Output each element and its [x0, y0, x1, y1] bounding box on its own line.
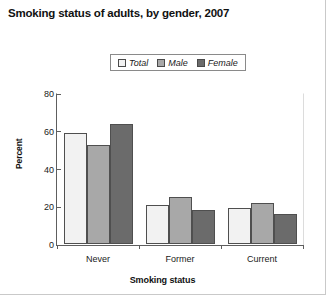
- chart-title: Smoking status of adults, by gender, 200…: [8, 7, 229, 19]
- y-tick-label: 0: [49, 240, 57, 250]
- legend-item-male[interactable]: Male: [157, 58, 188, 68]
- x-axis-title: Smoking status: [0, 275, 325, 285]
- bar-never-male[interactable]: [87, 145, 110, 244]
- bar-group-never: [58, 94, 140, 244]
- y-tick-20: 20: [44, 202, 57, 212]
- y-tick-label: 20: [44, 202, 57, 212]
- legend-label-total: Total: [129, 58, 148, 68]
- bar-never-total[interactable]: [64, 133, 87, 244]
- x-tick-label-current: Current: [247, 254, 277, 264]
- y-axis-title: Percent: [14, 139, 24, 169]
- y-tick-0: 0: [49, 240, 57, 250]
- bar-former-female[interactable]: [192, 210, 215, 244]
- chart-figure: Smoking status of adults, by gender, 200…: [0, 0, 326, 295]
- legend-item-female[interactable]: Female: [197, 58, 238, 68]
- x-tick-mark: [57, 245, 58, 249]
- bar-current-total[interactable]: [228, 208, 251, 244]
- y-tick-80: 80: [44, 89, 57, 99]
- bar-current-male[interactable]: [251, 203, 274, 244]
- y-tick-40: 40: [44, 165, 57, 175]
- bar-former-total[interactable]: [146, 205, 169, 244]
- bar-group-current: [221, 94, 303, 244]
- bar-never-female[interactable]: [110, 124, 133, 244]
- bar-group-former: [140, 94, 222, 244]
- bars-layer: [58, 94, 303, 244]
- legend-item-total[interactable]: Total: [118, 58, 148, 68]
- x-tick-label-former: Former: [166, 254, 195, 264]
- x-tick-mark: [303, 245, 304, 249]
- y-tick-label: 60: [44, 127, 57, 137]
- legend-label-male: Male: [168, 58, 188, 68]
- y-tick-label: 40: [44, 165, 57, 175]
- plot-area: 020406080 NeverFormerCurrent: [56, 93, 304, 246]
- bar-current-female[interactable]: [274, 214, 297, 244]
- x-tick-mark: [221, 245, 222, 249]
- chart-legend: Total Male Female: [110, 54, 246, 71]
- bar-former-male[interactable]: [169, 197, 192, 244]
- y-tick-label: 80: [44, 89, 57, 99]
- legend-swatch-female: [197, 59, 205, 67]
- legend-swatch-male: [157, 59, 165, 67]
- legend-swatch-total: [118, 59, 126, 67]
- x-tick-label-never: Never: [86, 254, 110, 264]
- legend-label-female: Female: [208, 58, 238, 68]
- y-tick-60: 60: [44, 127, 57, 137]
- x-tick-mark: [139, 245, 140, 249]
